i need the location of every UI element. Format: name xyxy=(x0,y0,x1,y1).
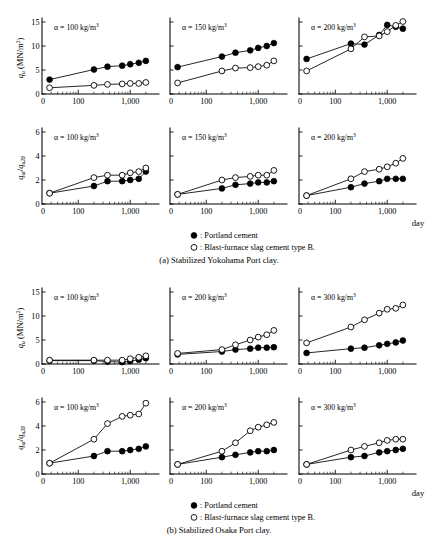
data-point-slag xyxy=(233,440,239,446)
data-point-slag xyxy=(400,436,406,442)
data-point-slag xyxy=(136,354,142,360)
data-point-portland xyxy=(255,180,261,186)
data-point-portland xyxy=(127,61,133,67)
panel-alpha-annotation: α = 200 kg/m3 xyxy=(311,132,356,142)
y-tick-label: 2 xyxy=(35,446,39,455)
data-point-portland xyxy=(384,176,390,182)
x-tick-label: 1,000 xyxy=(121,97,139,106)
data-point-slag xyxy=(136,81,142,87)
data-point-portland xyxy=(400,26,406,32)
data-point-slag xyxy=(384,306,390,312)
legend-filled-circle-icon xyxy=(191,503,197,509)
data-point-slag xyxy=(264,172,270,178)
alpha-equals: = 300 kg/m xyxy=(315,403,353,412)
data-point-portland xyxy=(376,178,382,184)
data-point-portland xyxy=(362,453,368,459)
data-point-portland xyxy=(393,340,399,346)
data-point-slag xyxy=(175,351,181,357)
data-point-slag xyxy=(91,357,97,363)
data-point-slag xyxy=(105,357,111,363)
data-point-slag xyxy=(143,353,149,359)
x-origin-label: 0 xyxy=(298,477,302,486)
data-point-slag xyxy=(127,81,133,87)
data-point-slag xyxy=(264,332,270,338)
figure-caption-a: (a) Stabilized Yokohama Port clay. xyxy=(159,255,278,265)
alpha-equals: = 100 kg/m xyxy=(58,23,96,32)
x-tick-label: 1,000 xyxy=(121,367,139,376)
data-point-portland xyxy=(247,346,253,352)
data-point-slag xyxy=(362,34,368,40)
data-point-portland xyxy=(136,60,142,66)
data-point-slag xyxy=(304,340,310,346)
data-point-slag xyxy=(143,165,149,171)
data-point-slag xyxy=(264,62,270,68)
data-point-slag xyxy=(376,440,382,446)
data-point-slag xyxy=(91,436,97,442)
legend-label-slag: : Blast-furnace slag cement type B. xyxy=(200,513,315,522)
x-tick-label: 1,000 xyxy=(249,207,267,216)
data-point-slag xyxy=(348,324,354,330)
y-tick-label: 0 xyxy=(35,360,39,369)
alpha-unit-exponent: 3 xyxy=(224,132,227,138)
data-point-slag xyxy=(47,85,53,91)
data-point-portland xyxy=(175,64,181,70)
data-point-slag xyxy=(393,436,399,442)
data-point-portland xyxy=(47,77,53,83)
data-point-portland xyxy=(105,448,111,454)
x-tick-label: 1,000 xyxy=(121,477,139,486)
data-point-slag xyxy=(233,175,239,181)
y-tick-label: 4 xyxy=(35,152,39,161)
alpha-unit-exponent: 3 xyxy=(96,22,99,28)
chart-panel-b-r1-c1: 0510151001,0000α = 100 kg/m3qu (MN/m2) xyxy=(15,288,159,376)
alpha-unit-exponent: 3 xyxy=(353,292,356,298)
alpha-unit-exponent: 3 xyxy=(224,22,227,28)
panel-alpha-annotation: α = 100 kg/m3 xyxy=(54,402,99,412)
x-tick-label: 1,000 xyxy=(249,97,267,106)
data-point-slag xyxy=(255,64,261,70)
panel-alpha-annotation: α = 300 kg/m3 xyxy=(311,402,356,412)
y-tick-label: 15 xyxy=(31,18,39,27)
data-point-portland xyxy=(233,182,239,188)
data-point-portland xyxy=(362,345,368,351)
data-point-portland xyxy=(91,453,97,459)
x-origin-label: 0 xyxy=(169,207,173,216)
data-point-slag xyxy=(127,412,133,418)
data-point-slag xyxy=(400,19,406,25)
data-point-slag xyxy=(362,317,368,323)
data-point-portland xyxy=(271,447,277,453)
alpha-equals: = 200 kg/m xyxy=(315,23,353,32)
data-point-portland xyxy=(247,181,253,187)
data-point-portland xyxy=(400,176,406,182)
chart-panel-b-r2-c2: 1001,0000α = 200 kg/m3 xyxy=(169,398,287,486)
alpha-unit-exponent: 3 xyxy=(353,22,356,28)
data-point-portland xyxy=(271,178,277,184)
legend-open-circle-icon xyxy=(191,245,197,251)
data-point-portland xyxy=(255,345,261,351)
alpha-equals: = 200 kg/m xyxy=(186,293,224,302)
alpha-unit-exponent: 3 xyxy=(96,402,99,408)
data-point-portland xyxy=(348,184,354,190)
data-point-portland xyxy=(136,176,142,182)
data-point-slag xyxy=(384,164,390,170)
panel-alpha-annotation: α = 100 kg/m3 xyxy=(54,22,99,32)
alpha-equals: = 300 kg/m xyxy=(315,293,353,302)
x-tick-label: 100 xyxy=(72,207,84,216)
data-point-slag xyxy=(304,462,310,468)
chart-panel-a-r2-c3: 1001,0000α = 200 kg/m3 xyxy=(298,128,416,216)
x-origin-label: 0 xyxy=(41,367,45,376)
data-point-portland xyxy=(304,350,310,356)
data-point-slag xyxy=(105,82,111,88)
data-point-portland xyxy=(400,446,406,452)
data-point-slag xyxy=(119,172,125,178)
x-axis-caption-a: day xyxy=(412,218,425,228)
x-tick-label: 1,000 xyxy=(378,97,396,106)
data-point-slag xyxy=(91,175,97,181)
chart-panel-a-r1-c3: 1001,0000α = 200 kg/m3 xyxy=(298,18,416,106)
data-point-portland xyxy=(384,448,390,454)
alpha-equals: = 100 kg/m xyxy=(58,293,96,302)
legend-label-portland: : Portland cement xyxy=(200,231,258,240)
data-point-portland xyxy=(219,186,225,192)
x-tick-label: 1,000 xyxy=(249,477,267,486)
x-tick-label: 100 xyxy=(329,477,341,486)
chart-panel-b-r1-c3: 1001,0000α = 300 kg/m3 xyxy=(298,288,416,376)
